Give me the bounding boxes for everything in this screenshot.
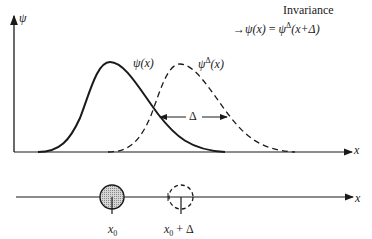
x-axis-bottom-label: x xyxy=(355,191,360,206)
y-axis-label: ψ xyxy=(19,11,26,26)
invariance-equation: →ψ(x) = ψΔ(x+Δ) xyxy=(233,21,320,37)
curve-psi-label: ψ(x) xyxy=(133,56,154,71)
equation-equals: = xyxy=(269,22,276,36)
curve-psi-delta-label: ψΔ(x) xyxy=(198,56,224,72)
shift-label: Δ xyxy=(189,109,197,124)
x-axis-top-label: x xyxy=(354,143,359,158)
curve-psi-argument: (x) xyxy=(140,56,153,70)
x0-delta-label: x0 + Δ xyxy=(164,222,194,238)
x0-delta-suffix: + Δ xyxy=(173,222,193,236)
diagram-title: Invariance xyxy=(283,3,334,18)
x0-sub: 0 xyxy=(113,229,117,238)
curve-psi-delta-argument: (x) xyxy=(211,57,224,71)
equation-lhs: ψ(x) xyxy=(245,22,266,36)
curve-psi-delta xyxy=(108,64,295,152)
curve-psi xyxy=(38,62,225,152)
arrow-glyph: → xyxy=(233,22,245,36)
equation-rhs-symbol: ψ xyxy=(279,22,286,36)
equation-rhs-argument: (x+Δ) xyxy=(291,22,319,36)
x0-label: x0 xyxy=(108,222,117,238)
